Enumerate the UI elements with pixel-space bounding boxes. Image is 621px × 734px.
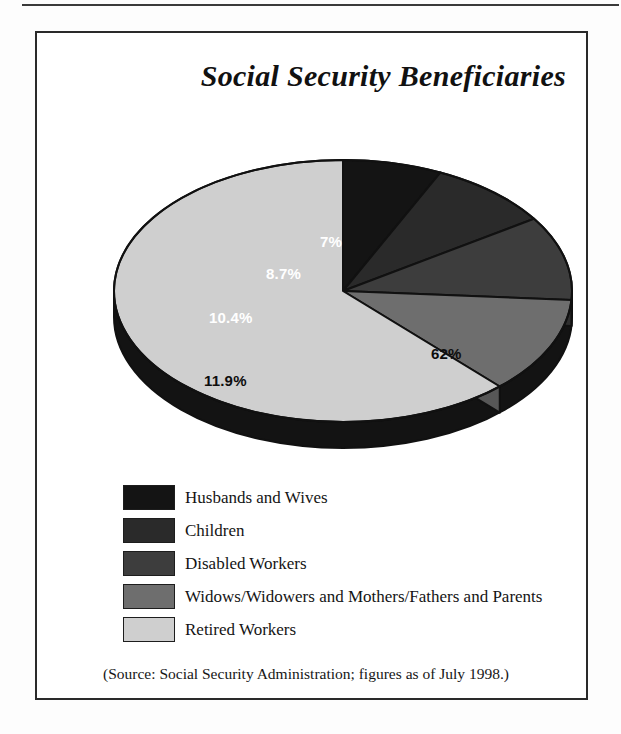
page-top-rule <box>22 4 619 6</box>
legend-item-label: Widows/Widowers and Mothers/Fathers and … <box>185 588 542 605</box>
pie-slice-label-husbands-wives: 7% <box>320 233 342 250</box>
pie-chart: 7% 8.7% 10.4% 11.9% 62% <box>49 105 574 425</box>
legend-swatch <box>123 485 175 510</box>
legend-item: Children <box>123 514 573 547</box>
legend-swatch <box>123 551 175 576</box>
legend-item-label: Retired Workers <box>185 621 296 638</box>
chart-legend: Husbands and WivesChildrenDisabled Worke… <box>123 481 573 646</box>
figure-frame: Social Security Beneficiaries 7% 8.7% 10… <box>35 31 588 700</box>
page-title: Social Security Beneficiaries <box>201 59 566 93</box>
legend-item-label: Husbands and Wives <box>185 489 328 506</box>
legend-swatch <box>123 584 175 609</box>
pie-slice-label-disabled-workers: 10.4% <box>209 309 253 326</box>
legend-item: Widows/Widowers and Mothers/Fathers and … <box>123 580 573 613</box>
pie-slice-label-widows-widowers: 11.9% <box>204 372 247 389</box>
legend-item-label: Disabled Workers <box>185 555 307 572</box>
legend-item: Disabled Workers <box>123 547 573 580</box>
legend-swatch <box>123 518 175 543</box>
pie-slice-label-children: 8.7% <box>266 265 301 282</box>
legend-item: Husbands and Wives <box>123 481 573 514</box>
pie-slice-label-retired-workers: 62% <box>431 345 462 362</box>
legend-item-label: Children <box>185 522 245 539</box>
legend-swatch <box>123 617 175 642</box>
pie-chart-svg <box>49 105 574 425</box>
source-note: (Source: Social Security Administration;… <box>103 665 509 683</box>
legend-item: Retired Workers <box>123 613 573 646</box>
